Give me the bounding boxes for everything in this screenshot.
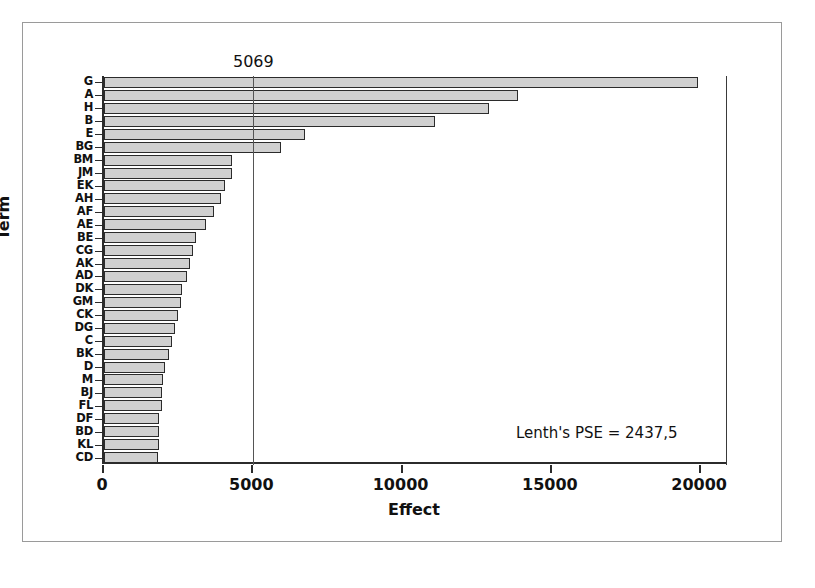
y-tick-label-be: BE: [47, 232, 93, 243]
x-axis-title: Effect: [102, 500, 726, 519]
bar-fl: [104, 400, 162, 411]
y-tick-label-dk: DK: [47, 283, 93, 294]
bar-dg: [104, 323, 175, 334]
bar-m: [104, 374, 163, 385]
y-tick-label-c: C: [47, 335, 93, 346]
x-tick-label-5000: 5000: [229, 475, 274, 494]
x-tick-label-0: 0: [96, 475, 107, 494]
y-tick: [95, 173, 102, 174]
lenths-pse-annotation: Lenth's PSE = 2437,5: [516, 424, 678, 442]
y-tick: [95, 432, 102, 433]
bar-b: [104, 116, 435, 127]
bar-be: [104, 232, 196, 243]
y-tick: [95, 354, 102, 355]
y-tick-label-bm: BM: [47, 154, 93, 165]
y-tick-label-kl: KL: [47, 439, 93, 450]
bar-ck: [104, 310, 178, 321]
x-tick-label-20000: 20000: [671, 475, 727, 494]
y-tick-label-df: DF: [47, 413, 93, 424]
y-tick: [95, 328, 102, 329]
y-tick: [95, 367, 102, 368]
y-tick-label-ae: AE: [47, 219, 93, 230]
y-tick-label-h: H: [47, 102, 93, 113]
bar-h: [104, 103, 489, 114]
bar-cg: [104, 245, 193, 256]
bar-df: [104, 413, 159, 424]
y-tick: [95, 95, 102, 96]
bar-e: [104, 129, 305, 140]
bar-bk: [104, 349, 169, 360]
y-tick-label-m: M: [47, 374, 93, 385]
x-tick: [401, 465, 403, 473]
bar-ak: [104, 258, 190, 269]
bar-g: [104, 77, 698, 88]
y-tick: [95, 341, 102, 342]
y-tick-label-e: E: [47, 128, 93, 139]
y-tick: [95, 186, 102, 187]
y-tick: [95, 147, 102, 148]
y-tick-label-g: G: [47, 76, 93, 87]
x-tick: [550, 465, 552, 473]
y-tick: [95, 264, 102, 265]
y-tick-label-b: B: [47, 115, 93, 126]
reference-line: [253, 76, 254, 465]
bar-kl: [104, 439, 159, 450]
x-tick: [251, 465, 253, 473]
y-tick: [95, 212, 102, 213]
y-tick: [95, 108, 102, 109]
y-tick-label-cd: CD: [47, 452, 93, 463]
y-tick: [95, 406, 102, 407]
y-tick: [95, 458, 102, 459]
y-tick-label-ah: AH: [47, 193, 93, 204]
y-tick: [95, 276, 102, 277]
y-tick: [95, 445, 102, 446]
y-tick-label-bd: BD: [47, 426, 93, 437]
bar-ae: [104, 219, 206, 230]
x-tick: [102, 465, 104, 473]
y-tick: [95, 199, 102, 200]
bar-ah: [104, 193, 221, 204]
plot-box-right-edge: [726, 76, 727, 465]
y-tick-label-ck: CK: [47, 309, 93, 320]
bar-af: [104, 206, 214, 217]
reference-line-label: 5069: [233, 52, 274, 71]
y-tick: [95, 134, 102, 135]
bar-c: [104, 336, 172, 347]
x-tick: [699, 465, 701, 473]
y-tick: [95, 380, 102, 381]
y-tick-label-ek: EK: [47, 180, 93, 191]
y-tick: [95, 225, 102, 226]
bar-ad: [104, 271, 187, 282]
y-tick-label-ad: AD: [47, 270, 93, 281]
bar-bd: [104, 426, 159, 437]
y-tick: [95, 251, 102, 252]
y-tick-label-a: A: [47, 89, 93, 100]
y-axis-title: Term: [0, 196, 13, 240]
y-tick: [95, 419, 102, 420]
bar-cd: [104, 452, 158, 463]
y-tick: [95, 238, 102, 239]
y-tick-label-gm: GM: [47, 296, 93, 307]
y-tick: [95, 289, 102, 290]
bar-ek: [104, 180, 225, 191]
bar-a: [104, 90, 518, 101]
bar-bm: [104, 155, 232, 166]
x-tick-label-10000: 10000: [373, 475, 429, 494]
bar-jm: [104, 168, 232, 179]
y-tick-label-d: D: [47, 361, 93, 372]
y-tick-label-dg: DG: [47, 322, 93, 333]
y-tick-label-bj: BJ: [47, 387, 93, 398]
y-axis-labels: GAHBEBGBMJMEKAHAFAEBECGAKADDKGMCKDGCBKDM…: [45, 0, 93, 588]
y-tick-label-fl: FL: [47, 400, 93, 411]
bar-gm: [104, 297, 181, 308]
bar-bj: [104, 387, 162, 398]
y-tick: [95, 82, 102, 83]
y-tick-label-jm: JM: [47, 167, 93, 178]
x-tick-label-15000: 15000: [522, 475, 578, 494]
plot-area: [102, 76, 726, 464]
y-tick-label-bk: BK: [47, 348, 93, 359]
y-tick-label-cg: CG: [47, 245, 93, 256]
bar-d: [104, 362, 165, 373]
bar-bg: [104, 142, 281, 153]
y-tick: [95, 315, 102, 316]
